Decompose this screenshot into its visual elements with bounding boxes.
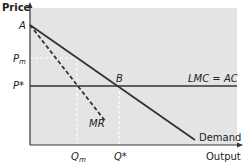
x-axis-arrow-icon [237,143,243,148]
pm-label: Pm [13,53,26,66]
demand-label: Demand [199,132,241,143]
monopoly-diagram: Price Output A Pm P* B LMC = AC MR Deman… [0,0,245,164]
point-a-label: A [18,20,26,31]
y-axis-label: Price [2,2,31,13]
mr-label: MR [89,118,105,129]
point-b-label: B [116,73,123,84]
qm-label: Qm [71,151,86,164]
x-axis-label: Output [206,151,241,162]
pstar-label: P* [13,80,24,91]
lmc-ac-label: LMC = AC [188,73,238,84]
qstar-label: Q* [114,151,127,162]
